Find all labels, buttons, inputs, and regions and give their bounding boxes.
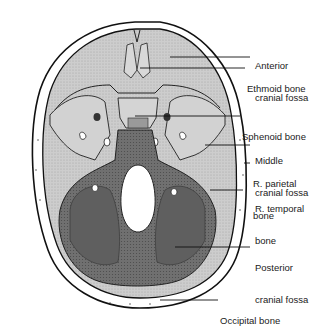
foramen-lacerum-left [104,138,110,146]
foramen-left-upper [94,113,101,121]
foramen-ovale-left [80,132,86,139]
foramen-right-upper [164,113,171,121]
jugular-foramen-left [92,185,98,192]
label-line: Occipital bone [220,316,280,327]
label-occipital-bone: Occipital bone [220,295,280,330]
foramen-magnum [121,165,155,232]
label-line: Posterior [255,263,308,274]
label-line: Ethmoid bone [247,84,306,95]
label-line: R. temporal [255,204,304,215]
sphenoid-body [118,98,158,128]
label-ethmoid-bone: Ethmoid bone [247,63,306,105]
foramen-ovale-right [180,132,186,139]
jugular-foramen-right [171,189,177,196]
